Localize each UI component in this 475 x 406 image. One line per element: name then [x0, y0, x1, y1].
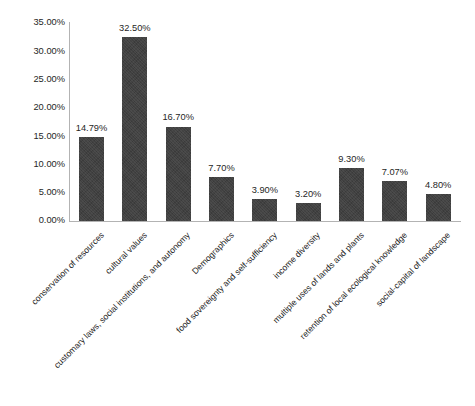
bar-value-label: 7.07% — [365, 168, 424, 177]
x-axis-line — [69, 221, 461, 222]
bar[interactable] — [382, 181, 407, 221]
bar-group[interactable]: 9.30% — [330, 23, 373, 221]
bar[interactable] — [122, 37, 147, 221]
bar[interactable] — [79, 137, 104, 221]
x-axis-category-label-text: Demographics — [189, 230, 235, 276]
x-axis-category-label-text: cultural values — [103, 230, 149, 276]
y-axis-tick-label: 35.00% — [3, 18, 65, 27]
x-axis-category-label-text: multiple uses of lands and plants — [271, 230, 366, 325]
bar-chart: 35.00%30.00%25.00%20.00%15.00%10.00%5.00… — [0, 0, 475, 406]
bar-group[interactable]: 7.07% — [373, 23, 416, 221]
bar-value-label: 32.50% — [105, 24, 164, 33]
bar-value-label: 3.20% — [279, 190, 338, 199]
y-axis-tick-label: 25.00% — [3, 75, 65, 84]
x-axis-category-label-text: income diversity — [272, 230, 323, 281]
bar-value-label: 9.30% — [322, 155, 381, 164]
y-axis-tick-label: 20.00% — [3, 103, 65, 112]
y-axis-tick-labels: 35.00%30.00%25.00%20.00%15.00%10.00%5.00… — [0, 0, 65, 406]
bar-group[interactable]: 3.20% — [287, 23, 330, 221]
x-axis-category-label-text: retention of local ecological knowledge — [298, 230, 409, 341]
x-axis-category-label: social-capital of landscape — [162, 230, 452, 406]
x-axis-category-label: multiple uses of lands and plants — [76, 230, 366, 406]
plot-area: 14.79%32.50%16.70%7.70%3.90%3.20%9.30%7.… — [70, 23, 460, 221]
bar[interactable] — [296, 203, 321, 221]
y-axis-tick-label: 10.00% — [3, 160, 65, 169]
y-axis-tick-label: 30.00% — [3, 47, 65, 56]
y-axis-tick-label: 0.00% — [3, 216, 65, 225]
bar-value-label: 16.70% — [149, 113, 208, 122]
bar-group[interactable]: 4.80% — [417, 23, 460, 221]
bar[interactable] — [209, 177, 234, 221]
bar-value-label: 14.79% — [62, 124, 121, 133]
bar[interactable] — [166, 127, 191, 221]
bar[interactable] — [426, 194, 451, 221]
y-axis-tick-label: 5.00% — [3, 188, 65, 197]
bar-value-label: 4.80% — [409, 181, 468, 190]
bar-value-label: 7.70% — [192, 164, 251, 173]
bar[interactable] — [252, 199, 277, 221]
x-axis-category-label-text: social-capital of landscape — [374, 230, 452, 308]
bar-group[interactable]: 14.79% — [70, 23, 113, 221]
x-axis-category-label: retention of local ecological knowledge — [119, 230, 409, 406]
x-axis-category-label-text: food sovereignty and self-sufficiency — [174, 230, 279, 335]
y-axis-tick-label: 15.00% — [3, 132, 65, 141]
x-axis-category-label-text: customary laws, social institutions, and… — [52, 230, 192, 370]
x-axis-category-label: income diversity — [33, 230, 323, 406]
bar[interactable] — [339, 168, 364, 221]
bar-group[interactable]: 16.70% — [157, 23, 200, 221]
